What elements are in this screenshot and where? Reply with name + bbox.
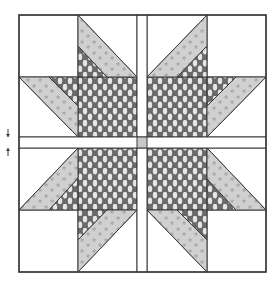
- top-left-dark-square: [78, 77, 137, 137]
- top-right-dark-square: [147, 77, 207, 137]
- top-left-white-square: [19, 15, 78, 77]
- down-arrow-head-icon: [6, 134, 10, 137]
- bottom-left-white-square: [19, 210, 78, 272]
- quilt-block-svg: ✲ ✲: [0, 0, 279, 290]
- up-arrow-head-icon: [6, 148, 10, 151]
- top-right-white-square: [207, 15, 266, 77]
- bottom-right-white-square: [207, 210, 266, 272]
- bottom-left-dark-square: [78, 148, 137, 210]
- measurement-arrows: [6, 129, 10, 156]
- bottom-right-dark-square: [147, 148, 207, 210]
- cornerstone: [137, 137, 147, 148]
- quilt-diagram: Quilt block with sashing and cornerstone…: [0, 0, 279, 290]
